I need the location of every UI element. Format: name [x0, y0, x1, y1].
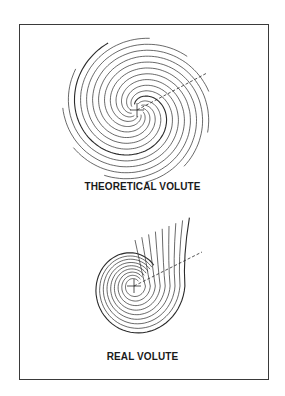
- volute-diagrams: [0, 0, 285, 396]
- dashed-radius-line: [137, 73, 207, 110]
- real-volute-drawing: [96, 218, 202, 333]
- spiral-arm: [93, 50, 209, 137]
- spiral-arm: [68, 69, 172, 161]
- theoretical-volute-caption: THEORETICAL VOLUTE: [0, 181, 285, 192]
- volute-curve: [126, 240, 146, 297]
- theoretical-volute-drawing: [63, 38, 209, 182]
- real-volute-caption: REAL VOLUTE: [0, 351, 285, 362]
